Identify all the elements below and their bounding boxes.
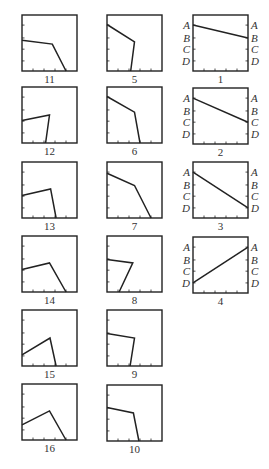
panel-label: 9 [132, 368, 138, 380]
panel-label: 2 [218, 146, 224, 158]
panel-6: 6 [107, 87, 162, 157]
right-axis-letter-d: D [250, 277, 259, 289]
right-axis-letter-a: A [250, 19, 258, 31]
data-line [193, 172, 248, 208]
panel-label: 7 [132, 220, 138, 232]
data-line [107, 407, 139, 441]
right-axis-letter-c: C [251, 190, 259, 202]
panel-label: 4 [218, 295, 224, 307]
panel-frame [193, 88, 248, 144]
data-line [107, 97, 140, 144]
panel-1: AABBCCDD1 [181, 15, 259, 85]
panel-label: 3 [218, 220, 224, 232]
data-line [22, 411, 66, 440]
left-axis-letter-b: B [183, 254, 190, 266]
data-line [22, 189, 56, 218]
data-line [107, 260, 133, 293]
panel-2: AABBCCDD2 [181, 88, 259, 158]
panel-4: AABBCCDD4 [181, 237, 259, 307]
panel-8: 8 [107, 236, 162, 306]
data-line [193, 247, 248, 283]
panel-label: 5 [132, 73, 138, 85]
panel-13: 13 [22, 162, 77, 232]
panel-label: 11 [44, 73, 55, 85]
data-line [107, 25, 135, 72]
panel-11: 11 [22, 15, 77, 85]
panel-frame [107, 385, 162, 441]
right-axis-letter-c: C [251, 116, 259, 128]
panel-16: 16 [22, 384, 77, 454]
left-axis-letter-d: D [181, 128, 190, 140]
left-axis-letter-d: D [181, 277, 190, 289]
panel-frame [193, 15, 248, 71]
panel-14: 14 [22, 236, 77, 306]
data-line [22, 338, 56, 366]
panel-label: 8 [132, 294, 138, 306]
figure-canvas: 115AABBCCDD1126AABBCCDD2137AABBCCDD3148A… [0, 0, 269, 469]
panel-3: AABBCCDD3 [181, 162, 259, 232]
data-line [193, 98, 248, 122]
left-axis-letter-d: D [181, 55, 190, 67]
panel-frame [107, 236, 162, 292]
left-axis-letter-b: B [183, 179, 190, 191]
panel-5: 5 [107, 15, 162, 85]
panel-12: 12 [22, 87, 77, 157]
panel-frame [22, 162, 77, 218]
left-axis-letter-c: C [183, 43, 191, 55]
right-axis-letter-c: C [251, 265, 259, 277]
panel-label: 15 [44, 368, 56, 380]
panel-label: 6 [132, 145, 138, 157]
data-line [107, 173, 151, 218]
data-line [193, 25, 248, 38]
panel-label: 10 [129, 443, 141, 455]
right-axis-letter-a: A [250, 92, 258, 104]
panel-frame [107, 162, 162, 218]
right-axis-letter-a: A [250, 241, 258, 253]
panel-label: 16 [44, 442, 56, 454]
right-axis-letter-c: C [251, 43, 259, 55]
panel-label: 1 [218, 73, 224, 85]
left-axis-letter-b: B [183, 32, 190, 44]
right-axis-letter-d: D [250, 128, 259, 140]
left-axis-letter-d: D [181, 202, 190, 214]
right-axis-letter-a: A [250, 166, 258, 178]
panel-15: 15 [22, 310, 77, 380]
left-axis-letter-a: A [182, 241, 190, 253]
panel-label: 14 [44, 294, 56, 306]
panel-label: 13 [44, 220, 56, 232]
left-axis-letter-c: C [183, 116, 191, 128]
data-line [22, 115, 50, 143]
left-axis-letter-a: A [182, 92, 190, 104]
data-line [22, 263, 66, 292]
left-axis-letter-c: C [183, 190, 191, 202]
left-axis-letter-a: A [182, 166, 190, 178]
panel-label: 12 [44, 145, 55, 157]
panel-7: 7 [107, 162, 162, 232]
panel-10: 10 [107, 385, 162, 455]
left-axis-letter-c: C [183, 265, 191, 277]
left-axis-letter-b: B [183, 105, 190, 117]
right-axis-letter-d: D [250, 202, 259, 214]
left-axis-letter-a: A [182, 19, 190, 31]
panel-9: 9 [107, 310, 162, 380]
data-line [107, 334, 135, 367]
data-line [22, 40, 66, 71]
right-axis-letter-b: B [251, 32, 258, 44]
right-axis-letter-d: D [250, 55, 259, 67]
right-axis-letter-b: B [251, 179, 258, 191]
right-axis-letter-b: B [251, 254, 258, 266]
right-axis-letter-b: B [251, 105, 258, 117]
